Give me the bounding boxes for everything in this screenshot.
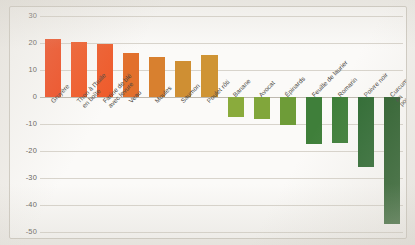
bar[interactable] <box>358 97 374 167</box>
bar[interactable] <box>384 97 400 224</box>
bars-layer <box>10 7 406 238</box>
plot-area: 3020100-10-20-30-40-50 GruyèreThon à l'h… <box>9 6 407 239</box>
bar[interactable] <box>228 97 244 117</box>
bar[interactable] <box>280 97 296 125</box>
bar-chart: 3020100-10-20-30-40-50 GruyèreThon à l'h… <box>0 0 415 245</box>
bar[interactable] <box>306 97 322 144</box>
bar[interactable] <box>254 97 270 119</box>
bar[interactable] <box>332 97 348 143</box>
